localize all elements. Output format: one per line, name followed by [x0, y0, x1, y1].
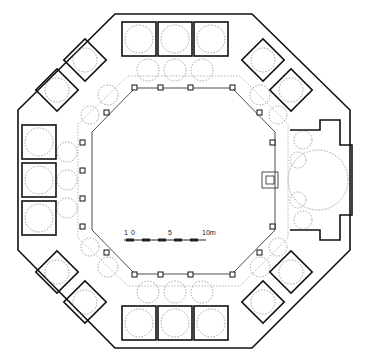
plan-drawing	[0, 0, 370, 361]
cells-top	[122, 22, 228, 81]
scale-label-0: 0	[131, 229, 135, 236]
cells-left	[22, 125, 77, 235]
scale-label-1: 1	[124, 229, 128, 236]
cells-bottom	[122, 281, 228, 340]
scale-label-10m: 10m	[202, 229, 216, 236]
scale-label-5: 5	[168, 229, 172, 236]
courtyard-edge	[92, 88, 275, 274]
scale-bar	[124, 239, 206, 242]
domed-hall-right	[262, 120, 352, 240]
